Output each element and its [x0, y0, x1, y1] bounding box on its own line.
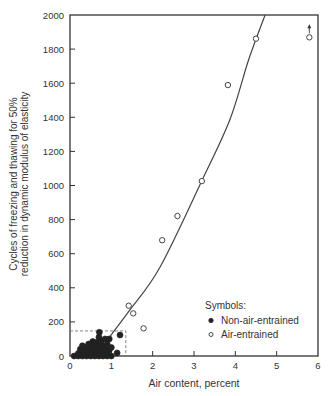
- non-air-entrained-point: [88, 349, 94, 355]
- y-axis-label-line: reduction in dynamic modulus of elastici…: [19, 92, 30, 277]
- x-tick-label: 3: [191, 360, 196, 371]
- y-tick-label: 2000: [43, 10, 64, 21]
- x-axis-label: Air content, percent: [148, 377, 239, 389]
- legend: Symbols:Non-air-entrainedAir-entrained: [205, 300, 299, 340]
- x-tick-label: 1: [109, 360, 114, 371]
- non-air-entrained-point: [75, 350, 81, 356]
- y-tick-label: 0: [59, 351, 64, 362]
- plot-frame: [70, 15, 318, 356]
- air-entrained-point: [159, 238, 164, 243]
- air-entrained-point: [253, 36, 258, 41]
- non-air-entrained-point: [114, 350, 120, 356]
- y-tick-label: 1000: [43, 180, 64, 191]
- arrow-head-icon: [307, 24, 311, 28]
- open-circle-icon: [209, 333, 213, 337]
- air-entrained-point: [175, 213, 180, 218]
- legend-title: Symbols:: [205, 300, 246, 311]
- x-tick-label: 0: [67, 360, 72, 371]
- y-tick-label: 200: [48, 316, 64, 327]
- filled-circle-icon: [209, 318, 213, 322]
- air-entrained-point: [199, 178, 204, 183]
- non-air-entrained-point: [106, 347, 112, 353]
- scatter-chart: Cycles of freezing and thawing for 50%re…: [0, 0, 330, 396]
- y-axis-label-line: Cycles of freezing and thawing for 50%: [8, 97, 19, 271]
- y-axis-label: Cycles of freezing and thawing for 50%re…: [8, 92, 30, 277]
- y-tick-label: 800: [48, 214, 64, 225]
- chart-container: Cycles of freezing and thawing for 50%re…: [0, 0, 330, 396]
- air-entrained-point: [141, 326, 146, 331]
- y-tick-label: 600: [48, 248, 64, 259]
- x-tick-label: 4: [233, 360, 238, 371]
- non-air-entrained-point: [96, 329, 102, 335]
- legend-entry-label: Air-entrained: [221, 329, 278, 340]
- x-tick-label: 5: [274, 360, 279, 371]
- air-entrained-point: [225, 82, 230, 87]
- x-tick-label: 2: [150, 360, 155, 371]
- non-air-entrained-point: [102, 336, 108, 342]
- air-entrained-point: [126, 303, 131, 308]
- non-air-entrained-point: [117, 332, 123, 338]
- y-tick-label: 1600: [43, 78, 64, 89]
- plot-axes: [70, 15, 318, 356]
- non-air-entrained-point: [90, 339, 96, 345]
- air-entrained-point: [307, 35, 312, 40]
- y-tick-label: 1800: [43, 44, 64, 55]
- non-air-entrained-point: [98, 341, 104, 347]
- y-tick-label: 1400: [43, 112, 64, 123]
- y-tick-label: 1200: [43, 146, 64, 157]
- fit-curve-line: [107, 15, 265, 340]
- data-points: [71, 24, 312, 359]
- air-entrained-point: [131, 311, 136, 316]
- y-tick-label: 400: [48, 282, 64, 293]
- trend-curve: [107, 15, 265, 340]
- legend-entry-label: Non-air-entrained: [221, 315, 299, 326]
- x-tick-label: 6: [315, 360, 320, 371]
